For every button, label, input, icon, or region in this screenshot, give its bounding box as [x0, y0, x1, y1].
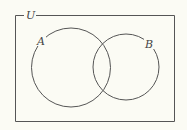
- set-a-label: A: [36, 35, 45, 48]
- set-b-label: B: [144, 38, 153, 51]
- venn-diagram: U A B: [0, 0, 187, 130]
- universe-label: U: [26, 9, 36, 22]
- universe-rectangle: [16, 16, 175, 122]
